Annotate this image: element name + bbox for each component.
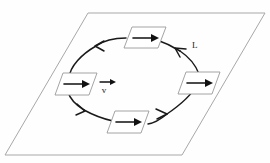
figure-root: v L: [0, 0, 270, 163]
physics-diagram: v L: [0, 0, 270, 163]
velocity-vector-letter: v: [102, 85, 107, 95]
loop-segment-bottom-left-b: [84, 110, 113, 121]
plate-bottom: [107, 111, 149, 133]
arrowhead-top-left: [95, 41, 104, 51]
plate-top: [124, 27, 166, 48]
velocity-vector-overbar-head: [110, 79, 116, 85]
loop-label-L: L: [192, 40, 198, 50]
loop-segment-top-left-a: [96, 38, 126, 46]
plate-right: [178, 72, 220, 94]
plate-left: [55, 73, 97, 95]
loop-segment-top-right-a: [180, 51, 199, 74]
arrowhead-bottom-right: [156, 109, 167, 119]
velocity-vector-symbol: v: [100, 79, 116, 95]
